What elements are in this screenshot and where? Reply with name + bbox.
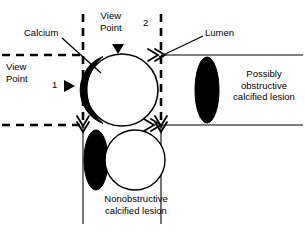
- calcium-leader-line: [62, 38, 101, 73]
- label-calcium: Calcium: [24, 27, 58, 39]
- figure-canvas: Calcium Lumen View Point 2 View Point 1 …: [0, 0, 305, 240]
- label-lumen: Lumen: [205, 27, 234, 39]
- view-point-1-right-triangle-icon: [64, 80, 75, 92]
- lumen-leader-line: [159, 36, 203, 57]
- label-view-point-2-number: 2: [143, 17, 148, 29]
- label-view-point-1-number: 1: [52, 79, 57, 91]
- possibly-obstructive-calcified-ellipse: [195, 57, 219, 123]
- label-view-point-2: View Point: [100, 10, 122, 33]
- nonobstructive-lumen-circle: [105, 130, 165, 190]
- label-nonobstructive-calcified-lesion: Nonobstructive calcified lesion: [86, 193, 186, 216]
- label-view-point-1: View Point: [6, 61, 28, 84]
- label-possibly-obstructive-calcified-lesion: Possibly obstructive calcified lesion: [225, 68, 303, 103]
- main-lumen-circle: [86, 54, 158, 126]
- view-point-2-down-triangle-icon: [112, 44, 124, 54]
